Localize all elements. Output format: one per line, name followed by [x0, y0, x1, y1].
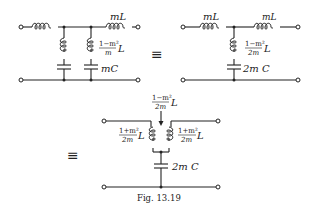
- label-c-left-suffix: L: [137, 130, 145, 141]
- label-b-series-right: mL: [262, 12, 277, 22]
- label-a-c2: mC: [101, 63, 118, 74]
- label-b-series-left: mL: [203, 11, 219, 22]
- terminal-c-bottom-right: [216, 185, 220, 189]
- terminal-a-top-left: [19, 25, 23, 29]
- inductor-a-series-right: [106, 23, 125, 29]
- terminal-a-bottom-left: [19, 78, 23, 82]
- equivalence-symbol-2: ≡: [67, 147, 79, 163]
- label-c-cap: 2m C: [171, 161, 199, 172]
- label-c-mutual-num: 1−m²: [152, 94, 172, 102]
- circuit-c: 1−m² 2m L 1+m² 2m L 1+m² 2m L: [102, 94, 220, 189]
- terminal-b-top-right: [296, 25, 300, 29]
- label-a-l2-num: 1−m²: [99, 40, 119, 48]
- label-b-l-den: 2m: [247, 49, 259, 57]
- label-c-right-den: 2m: [180, 136, 192, 144]
- label-a-l2-suffix: L: [117, 43, 125, 54]
- inductor-b-shunt: [230, 38, 236, 52]
- equivalence-symbol-1: ≡: [151, 46, 163, 62]
- terminal-a-top-right: [136, 25, 140, 29]
- terminal-b-top-left: [181, 25, 185, 29]
- terminal-b-bottom-left: [181, 78, 185, 82]
- label-c-left-den: 2m: [121, 136, 133, 144]
- label-a-l2-den: m: [105, 49, 112, 57]
- terminal-b-bottom-right: [296, 78, 300, 82]
- label-a-series-right: mL: [110, 11, 126, 22]
- inductor-a-shunt-1: [60, 38, 66, 52]
- label-b-c: 2m C: [242, 63, 270, 74]
- terminal-c-bottom-left: [102, 185, 106, 189]
- figure-13-19: mL 1−m² m L mC ≡: [0, 0, 315, 212]
- terminal-c-top-left: [102, 119, 106, 123]
- label-c-left-num: 1+m²: [119, 127, 139, 135]
- inductor-a-series-left: [32, 23, 51, 29]
- terminal-a-bottom-right: [136, 78, 140, 82]
- inductor-b-series-left: [200, 23, 219, 29]
- inductor-a-shunt-2: [87, 38, 93, 52]
- label-c-mutual-suffix: L: [170, 97, 178, 108]
- terminal-c-top-right: [216, 119, 220, 123]
- label-c-right-num: 1+m²: [178, 127, 198, 135]
- circuit-b: mL mL 1−m² 2m L 2m C: [181, 11, 300, 82]
- inductor-b-series-right: [254, 23, 273, 29]
- figure-caption: Fig. 13.19: [137, 193, 181, 203]
- label-c-mutual-den: 2m: [154, 103, 166, 111]
- label-b-l-num: 1−m²: [245, 40, 265, 48]
- inductor-c-left: [149, 127, 155, 141]
- label-c-right-suffix: L: [196, 130, 204, 141]
- circuit-a: mL 1−m² m L mC: [19, 11, 140, 82]
- label-b-l-suffix: L: [263, 43, 271, 54]
- inductor-c-right: [167, 127, 173, 141]
